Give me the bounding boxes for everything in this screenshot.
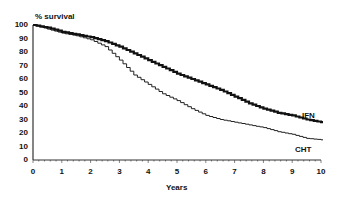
y-tick-label: 90 xyxy=(4,34,28,43)
y-tick-label: 60 xyxy=(4,74,28,83)
x-tick-label: 3 xyxy=(111,167,127,176)
cht-curve xyxy=(33,25,323,140)
y-tick-label: 70 xyxy=(4,61,28,70)
y-tick-label: 50 xyxy=(4,88,28,97)
y-tick-label: 100 xyxy=(4,20,28,29)
x-tick-label: 0 xyxy=(25,167,41,176)
x-tick-label: 6 xyxy=(198,167,214,176)
y-tick-label: 40 xyxy=(4,101,28,110)
y-tick-label: 10 xyxy=(4,142,28,151)
x-tick-label: 1 xyxy=(54,167,70,176)
y-axis-label: % survival xyxy=(35,12,75,21)
axes xyxy=(33,25,321,163)
x-tick-label: 7 xyxy=(227,167,243,176)
x-tick-label: 5 xyxy=(169,167,185,176)
x-tick-label: 8 xyxy=(255,167,271,176)
x-axis-label: Years xyxy=(166,183,187,192)
x-tick-label: 9 xyxy=(284,167,300,176)
ifn-curve xyxy=(33,25,323,122)
ifn-series-label: IFN xyxy=(302,111,315,120)
y-tick-label: 0 xyxy=(4,155,28,164)
x-tick-label: 4 xyxy=(140,167,156,176)
cht-series-label: CHT xyxy=(295,145,311,154)
x-tick-label: 10 xyxy=(313,167,329,176)
y-tick-label: 30 xyxy=(4,115,28,124)
x-tick-label: 2 xyxy=(83,167,99,176)
y-tick-label: 80 xyxy=(4,47,28,56)
y-tick-label: 20 xyxy=(4,128,28,137)
